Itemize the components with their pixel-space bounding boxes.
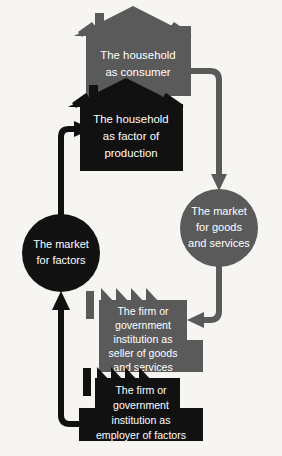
firm-seller-line-5: and services	[113, 361, 172, 373]
firm-seller-line-1: The firm or	[117, 305, 169, 317]
firm-employer-line-1: The firm or	[115, 384, 167, 396]
firm-seller-line-3: institution as	[114, 333, 173, 345]
node-market-for-goods-and-services: The market for goods and services	[180, 189, 258, 267]
household-consumer-line-2: as consumer	[105, 66, 170, 78]
market-factors-line-2: for factors	[37, 254, 86, 266]
household-consumer-line-1: The household	[100, 49, 175, 61]
node-market-for-factors: The market for factors	[22, 214, 100, 292]
firm-employer-line-4: employer of factors	[96, 429, 186, 441]
connector-goods-market-to-firm-seller	[187, 266, 219, 328]
node-firm-as-seller: The firm or government institution as se…	[86, 288, 203, 373]
firm-employer-line-3: institution as	[112, 414, 171, 426]
household-factor-line-3: production	[104, 147, 157, 159]
connector-consumer-to-goods-market	[191, 71, 227, 191]
market-goods-line-2: for goods	[196, 221, 242, 233]
firm-seller-line-4: seller of goods	[109, 347, 178, 359]
circular-flow-diagram: The household as consumer The household …	[0, 0, 282, 456]
market-factors-line-1: The market	[33, 238, 89, 250]
connector-firm-employer-to-factor-market	[52, 291, 80, 424]
household-factor-line-1: The household	[93, 113, 168, 125]
market-goods-line-1: The market	[191, 205, 247, 217]
household-factor-line-2: as factor of	[103, 130, 160, 142]
firm-seller-line-2: government	[115, 319, 171, 331]
node-firm-as-employer: The firm or government institution as em…	[79, 367, 203, 441]
market-goods-line-3: and services	[188, 237, 250, 249]
firm-employer-line-2: government	[113, 399, 169, 411]
